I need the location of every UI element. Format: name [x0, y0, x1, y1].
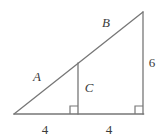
figure-canvas [0, 0, 162, 140]
right-angle-marker-altitude-foot [70, 106, 78, 114]
geometry-figure: A B C 6 4 4 [0, 0, 162, 140]
label-side-b: B [102, 16, 110, 29]
label-altitude-c: C [85, 81, 94, 94]
right-angle-marker-bottom-right [135, 106, 143, 114]
measure-base-left: 4 [42, 123, 49, 136]
measure-base-right: 4 [106, 123, 113, 136]
label-side-a: A [33, 70, 41, 83]
measure-right-side: 6 [149, 56, 156, 69]
